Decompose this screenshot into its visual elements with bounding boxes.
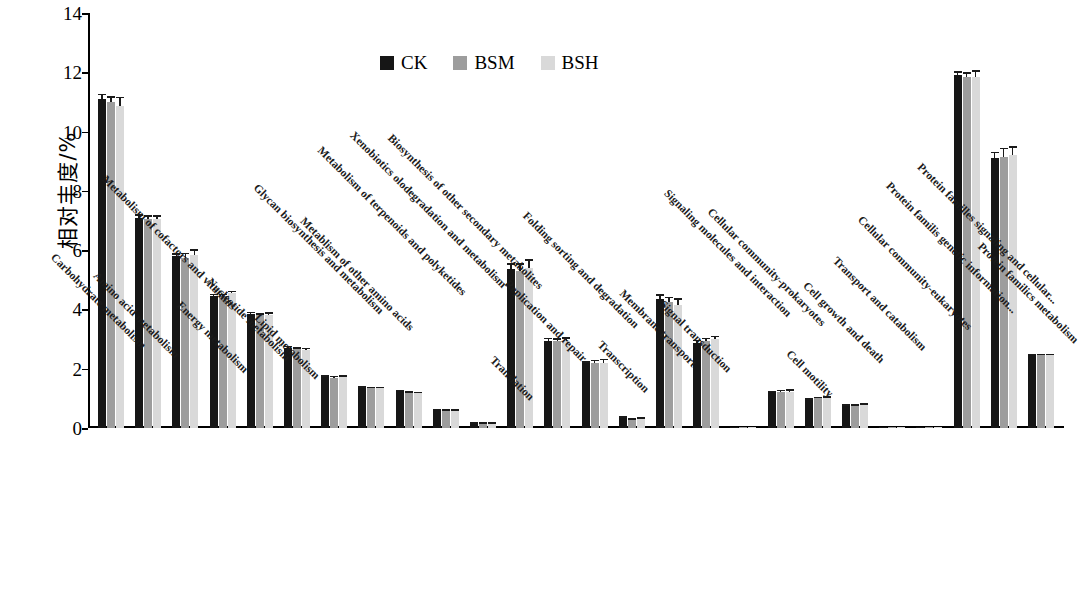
bar-bsm <box>888 427 896 428</box>
bar-group <box>321 13 347 428</box>
bar-bsm <box>814 398 822 428</box>
error-bar <box>966 72 967 77</box>
bar-bsh <box>972 77 980 428</box>
y-tick-mark <box>82 72 88 74</box>
error-bar <box>1049 354 1050 356</box>
error-bar <box>659 294 660 299</box>
y-tick-mark <box>82 132 88 134</box>
error-bar <box>371 387 372 388</box>
error-bar <box>380 387 381 388</box>
y-tick-mark <box>82 250 88 252</box>
error-bar <box>342 375 343 377</box>
bar-bsh <box>600 363 608 428</box>
bar-bsh <box>1009 155 1017 428</box>
error-bar <box>845 404 846 405</box>
bar-bsh <box>897 427 905 428</box>
bar-group <box>98 13 124 428</box>
error-bar <box>863 403 864 404</box>
error-bar <box>789 389 790 391</box>
bar-ck <box>396 391 404 428</box>
error-bar <box>268 312 269 315</box>
bar-ck <box>433 410 441 428</box>
bar-bsm <box>591 363 599 428</box>
bar-bsh <box>860 405 868 428</box>
error-bar <box>156 215 157 219</box>
bar-ck <box>321 377 329 428</box>
error-bar <box>957 71 958 75</box>
bar-bsm <box>405 392 413 428</box>
bar-bsh <box>562 341 570 428</box>
bar-ck <box>172 256 180 428</box>
error-bar <box>817 397 818 399</box>
bar-group <box>879 13 905 428</box>
error-bar <box>808 398 809 399</box>
x-axis-category-labels: Carbohydrate metabolismAmino acid metabo… <box>88 432 1064 611</box>
error-bar <box>714 336 715 340</box>
error-bar <box>417 392 418 393</box>
error-bar <box>585 361 586 363</box>
bar-bsm <box>777 392 785 428</box>
y-tick-label: 4 <box>38 300 82 319</box>
bar-group <box>991 13 1017 428</box>
error-bar <box>305 348 306 350</box>
error-bar <box>436 409 437 410</box>
bar-ck <box>768 392 776 428</box>
bar-bsh <box>339 377 347 428</box>
bar-bsm <box>628 420 636 428</box>
bar-group <box>582 13 608 428</box>
bar-bsh <box>414 393 422 428</box>
y-tick-mark <box>82 309 88 311</box>
error-bar <box>780 390 781 392</box>
y-tick-label: 8 <box>38 181 82 200</box>
y-tick-label: 14 <box>38 4 82 23</box>
bar-bsh <box>1046 355 1054 428</box>
bar-bsh <box>637 419 645 428</box>
error-bar <box>631 418 632 419</box>
bar-ck <box>879 427 887 428</box>
bar-ck <box>210 296 218 428</box>
error-bar <box>333 376 334 378</box>
error-bar <box>324 375 325 377</box>
error-bar <box>399 390 400 391</box>
bar-bsm <box>479 423 487 428</box>
bar-ck <box>619 418 627 428</box>
bar-ck <box>842 406 850 428</box>
bar-bsm <box>367 388 375 428</box>
bar-group <box>544 13 570 428</box>
bar-ck <box>544 341 552 428</box>
error-bar <box>454 409 455 410</box>
bar-group <box>1028 13 1054 428</box>
y-tick-label: 0 <box>38 419 82 438</box>
bar-ck <box>805 400 813 428</box>
error-bar <box>445 409 446 410</box>
bar-group <box>358 13 384 428</box>
error-bar <box>975 70 976 77</box>
error-bar <box>482 422 483 423</box>
bar-bsh <box>488 423 496 428</box>
error-bar <box>603 359 604 363</box>
bar-bsm <box>219 296 227 428</box>
error-bar <box>473 422 474 423</box>
y-tick-mark <box>82 13 88 15</box>
bar-ck <box>98 99 106 428</box>
error-bar <box>548 338 549 341</box>
error-bar <box>408 391 409 392</box>
error-bar <box>594 360 595 363</box>
bar-bsh <box>376 388 384 428</box>
y-tick-mark <box>82 428 88 430</box>
error-bar <box>101 94 102 99</box>
error-bar <box>362 386 363 387</box>
y-tick-label: 12 <box>38 63 82 82</box>
bar-ck <box>358 388 366 428</box>
bar-bsm <box>851 405 859 428</box>
error-bar <box>1003 148 1004 157</box>
bar-bsh <box>190 255 198 428</box>
error-bar <box>622 416 623 417</box>
y-axis-tick-labels: 14121086420 <box>26 0 82 611</box>
bar-bsh <box>786 392 794 428</box>
error-bar <box>677 298 678 305</box>
bar-bsm <box>925 427 933 428</box>
bar-group <box>172 13 198 428</box>
bar-group <box>210 13 236 428</box>
